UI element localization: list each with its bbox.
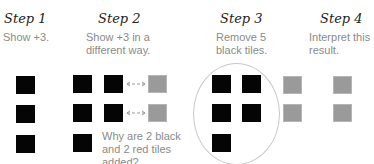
black-tile <box>16 105 35 123</box>
step-3-description-line-2: black tiles. <box>216 44 267 57</box>
question-line-3: added? <box>102 156 181 164</box>
black-tile <box>212 75 231 93</box>
red-tile <box>283 104 302 122</box>
step-3-title: Step 3 <box>220 11 263 26</box>
question-line-2: and 2 red tiles <box>102 143 181 156</box>
black-tile <box>73 134 92 152</box>
step-2-description: Show +3 in a different way. <box>86 31 150 57</box>
step-3-description: Remove 5 black tiles. <box>216 31 267 57</box>
red-tile <box>148 75 167 93</box>
black-tile <box>242 75 261 93</box>
step-1-description-line: Show +3. <box>3 31 49 44</box>
step-4-description: Interpret this result. <box>309 31 370 57</box>
removal-circle <box>193 63 280 164</box>
red-tile <box>333 76 352 94</box>
black-tile <box>73 104 92 122</box>
black-tile <box>212 134 231 152</box>
double-arrow-icon <box>126 110 146 116</box>
black-tile <box>104 75 123 93</box>
step-2-description-line-2: different way. <box>86 44 150 57</box>
black-tile <box>73 75 92 93</box>
step-2-question: Why are 2 black and 2 red tiles added? <box>102 130 181 164</box>
black-tile <box>104 104 123 122</box>
red-tile <box>148 104 167 122</box>
red-tile <box>283 76 302 94</box>
question-line-1: Why are 2 black <box>102 130 181 143</box>
step-1-title: Step 1 <box>4 11 47 26</box>
black-tile <box>16 135 35 153</box>
black-tile <box>16 76 35 94</box>
step-3-description-line-1: Remove 5 <box>216 31 267 44</box>
step-1-description: Show +3. <box>3 31 49 44</box>
step-2-title: Step 2 <box>98 11 141 26</box>
black-tile <box>242 104 261 122</box>
double-arrow-icon <box>126 81 146 87</box>
black-tile <box>212 104 231 122</box>
step-2-description-line-1: Show +3 in a <box>86 31 150 44</box>
step-4-description-line-1: Interpret this <box>309 31 370 44</box>
step-4-title: Step 4 <box>320 11 363 26</box>
step-4-description-line-2: result. <box>309 44 370 57</box>
red-tile <box>333 104 352 122</box>
